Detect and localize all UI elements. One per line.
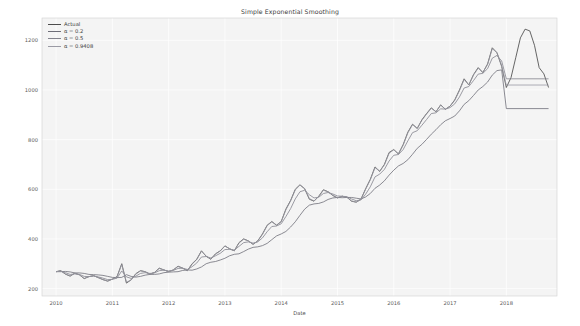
y-tick-label: 200 xyxy=(8,286,38,292)
y-tick-label: 1200 xyxy=(8,37,38,43)
x-tick-label: 2011 xyxy=(97,300,127,306)
x-tick-label: 2018 xyxy=(491,300,521,306)
series-line-2 xyxy=(56,55,548,279)
x-tick-label: 2016 xyxy=(379,300,409,306)
legend-swatch-icon xyxy=(48,24,61,25)
x-tick-label: 2010 xyxy=(41,300,71,306)
legend-swatch-icon xyxy=(48,38,61,39)
series-line-3 xyxy=(56,49,548,282)
legend-item-1: α = 0.2 xyxy=(48,28,93,35)
legend-item-3: α = 0.9408 xyxy=(48,43,93,50)
chart-legend: Actualα = 0.2α = 0.5α = 0.9408 xyxy=(48,21,93,50)
x-tick-label: 2013 xyxy=(210,300,240,306)
legend-item-2: α = 0.5 xyxy=(48,35,93,42)
x-tick-label: 2015 xyxy=(322,300,352,306)
chart-figure: Simple Exponential Smoothing 20040060080… xyxy=(0,0,580,326)
x-tick-label: 2014 xyxy=(266,300,296,306)
x-tick-label: 2017 xyxy=(435,300,465,306)
legend-label: α = 0.5 xyxy=(64,35,83,42)
y-tick-label: 800 xyxy=(8,137,38,143)
legend-swatch-icon xyxy=(48,46,61,47)
y-tick-label: 400 xyxy=(8,236,38,242)
series-line-1 xyxy=(56,70,548,278)
legend-swatch-icon xyxy=(48,31,61,32)
legend-label: Actual xyxy=(64,21,80,28)
x-tick-label: 2012 xyxy=(154,300,184,306)
x-axis-label: Date xyxy=(42,310,557,316)
series-line-0 xyxy=(56,29,548,283)
legend-label: α = 0.9408 xyxy=(64,43,93,50)
legend-item-0: Actual xyxy=(48,21,93,28)
legend-label: α = 0.2 xyxy=(64,28,83,35)
y-tick-label: 600 xyxy=(8,186,38,192)
y-tick-label: 1000 xyxy=(8,87,38,93)
